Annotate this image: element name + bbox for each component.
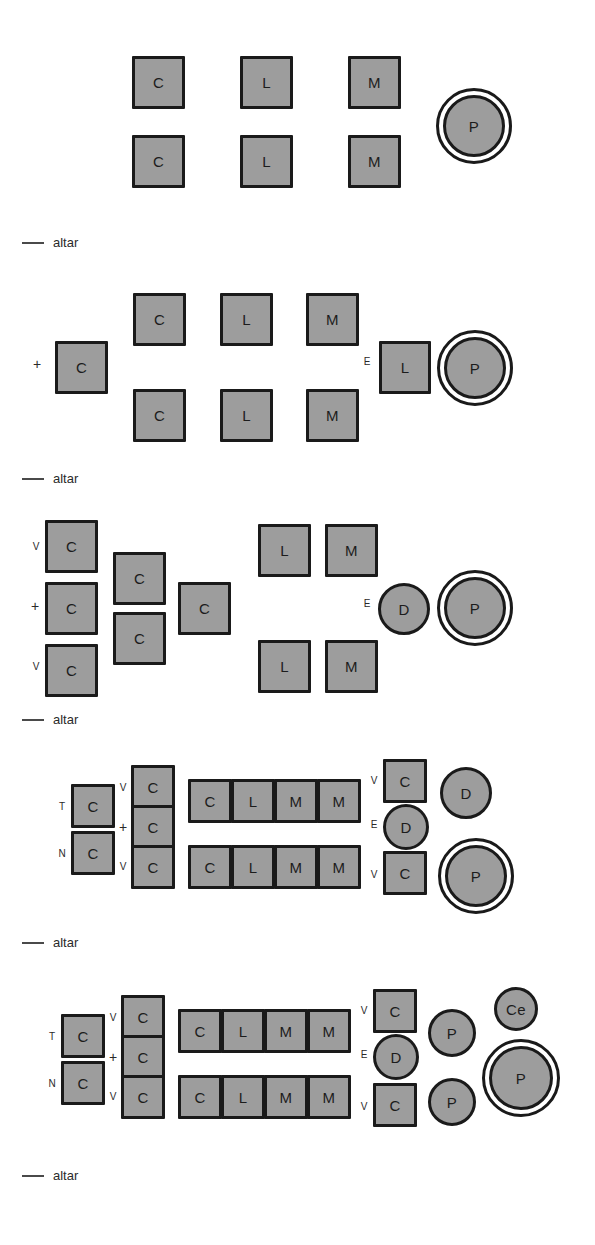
altar-legend: altar <box>22 235 78 250</box>
shape-square-c: C <box>61 1014 105 1058</box>
shape-square-c: C <box>383 851 427 895</box>
shape-label: C <box>147 820 158 835</box>
annotation-e: E <box>369 820 379 830</box>
annotation-plus: + <box>107 1050 119 1064</box>
shape-label: C <box>389 1098 400 1113</box>
shape-square-c: C <box>55 341 108 394</box>
shape-square-l: L <box>258 640 311 693</box>
shape-label: L <box>262 154 271 169</box>
annotation-e: E <box>362 357 372 367</box>
shape-circle-d: D <box>373 1034 419 1080</box>
annotation-v: V <box>31 662 41 672</box>
shape-square-c: C <box>188 845 232 889</box>
shape-label: L <box>249 794 258 809</box>
altar-legend-label: altar <box>53 712 78 727</box>
shape-square-m: M <box>274 779 318 823</box>
shape-square-c: C <box>45 644 98 697</box>
shape-square-c: C <box>131 805 175 849</box>
shape-square-l: L <box>231 779 275 823</box>
shape-square-m: M <box>317 779 361 823</box>
shape-square-m: M <box>264 1075 308 1119</box>
shape-label: D <box>390 1050 401 1065</box>
shape-square-c: C <box>132 56 185 109</box>
shape-square-c: C <box>178 1075 222 1119</box>
shape-label: C <box>66 601 77 616</box>
shape-label: C <box>399 866 410 881</box>
shape-label: P <box>443 95 505 157</box>
shape-label: D <box>460 786 471 801</box>
shape-label: M <box>323 1090 336 1105</box>
shape-label: C <box>153 154 164 169</box>
shape-label: P <box>444 337 506 399</box>
altar-legend-label: altar <box>53 1168 78 1183</box>
shape-label: Ce <box>506 1002 526 1017</box>
shape-square-c: C <box>45 520 98 573</box>
shape-label: C <box>204 794 215 809</box>
shape-label: M <box>326 312 339 327</box>
altar-legend: altar <box>22 471 78 486</box>
stage-1: C L M C L M P <box>0 0 595 225</box>
shape-label: C <box>147 780 158 795</box>
stage-4: T C N C V C + C V C C L M M C L M M V C … <box>0 755 595 920</box>
annotation-v: V <box>369 776 379 786</box>
shape-sanctuary-p: P <box>436 88 512 164</box>
annotation-v: V <box>118 783 128 793</box>
annotation-v: V <box>31 542 41 552</box>
shape-label: C <box>153 75 164 90</box>
shape-square-c: C <box>383 759 427 803</box>
annotation-v: V <box>369 870 379 880</box>
annotation-v: V <box>108 1013 118 1023</box>
shape-label: C <box>154 312 165 327</box>
annotation-plus: + <box>31 357 43 371</box>
shape-square-c: C <box>113 552 166 605</box>
annotation-v: V <box>108 1092 118 1102</box>
annotation-plus: + <box>29 599 41 613</box>
shape-square-c: C <box>45 582 98 635</box>
shape-label: C <box>399 774 410 789</box>
shape-circle-p: P <box>428 1078 476 1126</box>
shape-square-m: M <box>306 389 359 442</box>
shape-label: C <box>137 1050 148 1065</box>
shape-square-l: L <box>221 1075 265 1119</box>
shape-square-c: C <box>178 582 231 635</box>
annotation-v: V <box>359 1102 369 1112</box>
shape-label: P <box>447 1026 457 1041</box>
shape-square-l: L <box>231 845 275 889</box>
shape-label: C <box>389 1004 400 1019</box>
shape-square-l: L <box>258 524 311 577</box>
shape-label: C <box>137 1010 148 1025</box>
shape-label: C <box>87 846 98 861</box>
shape-label: C <box>137 1090 148 1105</box>
shape-label: C <box>134 571 145 586</box>
shape-square-l: L <box>221 1009 265 1053</box>
shape-label: D <box>398 602 409 617</box>
shape-square-c: C <box>373 989 417 1033</box>
shape-label: C <box>76 360 87 375</box>
shape-label: C <box>87 799 98 814</box>
shape-circle-p: P <box>428 1009 476 1057</box>
shape-label: M <box>290 794 303 809</box>
shape-square-m: M <box>348 135 401 188</box>
shape-label: C <box>199 601 210 616</box>
shape-label: M <box>333 794 346 809</box>
annotation-v: V <box>118 862 128 872</box>
shape-label: L <box>280 659 289 674</box>
shape-square-c: C <box>131 845 175 889</box>
shape-label: L <box>249 860 258 875</box>
annotation-e: E <box>362 599 372 609</box>
shape-label: M <box>280 1090 293 1105</box>
shape-label: L <box>401 360 410 375</box>
shape-sanctuary-p: P <box>437 570 513 646</box>
shape-square-l: L <box>240 135 293 188</box>
shape-square-l: L <box>240 56 293 109</box>
shape-sanctuary-p: P <box>437 330 513 406</box>
shape-label: D <box>400 820 411 835</box>
shape-label: L <box>242 408 251 423</box>
shape-label: M <box>345 543 358 558</box>
annotation-t: T <box>57 802 67 812</box>
annotation-e: E <box>359 1050 369 1060</box>
shape-label: P <box>445 845 507 907</box>
shape-label: C <box>194 1024 205 1039</box>
stage-3: V C + C V C C C C L M L M E D P <box>0 510 595 700</box>
shape-label: L <box>239 1024 248 1039</box>
